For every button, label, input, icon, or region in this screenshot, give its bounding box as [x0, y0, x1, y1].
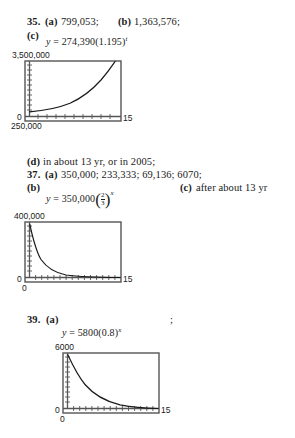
graph37	[24, 221, 122, 283]
label-39a: (a)	[46, 313, 59, 326]
graph39	[62, 352, 160, 414]
answer-key-page: 35. (a) 799,053; (b) 1,363,576; (c) y = …	[0, 0, 295, 438]
equation-37-exponent: x	[111, 189, 114, 197]
graph37-xorigin-label: 0	[22, 283, 27, 293]
graph37-xmax-label: 15	[123, 274, 132, 284]
label-35c: (c)	[27, 29, 39, 42]
equation-39-exponent: x	[118, 326, 121, 334]
item-number-37: 37.	[27, 168, 40, 181]
graph35	[24, 60, 122, 122]
semicolon-39: ;	[170, 313, 173, 326]
equation-35-exponent: t	[125, 35, 127, 43]
equation-35-coefficient: 274,390(1.195)	[62, 36, 126, 47]
graph39-xmax-label: 15	[161, 405, 170, 415]
equation-39-coefficient: 5800(0.8)	[78, 327, 119, 338]
equation-37-coefficient: 350,000	[62, 193, 96, 204]
graph39-ymax-label: 6000	[55, 342, 74, 352]
graph35-ymax-label: 3,500,000	[12, 50, 50, 60]
answer-37a: 350,000; 233,333; 69,136; 6070;	[61, 168, 202, 181]
graph35-xmax-label: 15	[123, 113, 132, 123]
label-37c: (c)	[180, 181, 192, 194]
equation-37: y = 350,000(23)x	[46, 192, 114, 208]
label-35d: (d)	[27, 155, 40, 168]
answer-35a: 799,053;	[61, 15, 99, 28]
graph35-ymin-label: 250,000	[11, 121, 42, 131]
item-number-35: 35.	[27, 15, 40, 28]
graph37-ymax-label: 400,000	[14, 211, 45, 221]
label-37b: (b)	[27, 181, 40, 194]
label-37a: (a)	[45, 168, 58, 181]
answer-37c: after about 13 yr	[196, 181, 267, 194]
fraction-close-paren: )	[105, 193, 111, 207]
item-number-39: 39.	[27, 313, 40, 326]
answer-35b: 1,363,576;	[134, 15, 180, 28]
label-35b: (b)	[118, 15, 131, 28]
equation-35: y = 274,390(1.195)t	[46, 35, 128, 47]
graph39-xorigin-label: 0	[60, 414, 65, 424]
answer-35d: in about 13 yr, or in 2005;	[43, 155, 155, 168]
equation-39: y = 5800(0.8)x	[62, 326, 121, 338]
label-35a: (a)	[45, 15, 58, 28]
